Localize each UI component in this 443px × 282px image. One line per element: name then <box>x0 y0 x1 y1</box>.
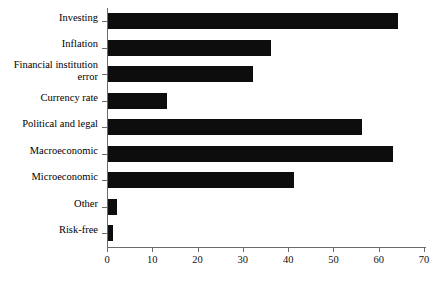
x-axis-tick-label: 20 <box>183 254 213 266</box>
x-axis-tick-label: 50 <box>318 254 348 266</box>
bar-band <box>108 61 425 88</box>
bar-investing <box>108 13 398 29</box>
bar-chart: Investing Inflation Financial institutio… <box>0 0 443 282</box>
y-axis-tick <box>102 233 107 234</box>
x-axis-tick <box>152 248 153 252</box>
y-axis-tick <box>102 48 107 49</box>
bar-band <box>108 194 425 221</box>
bar-band <box>108 8 425 35</box>
x-axis-tick <box>424 248 425 252</box>
plot-area <box>108 8 425 247</box>
bar-macroeconomic <box>108 146 393 162</box>
category-label-risk-free: Risk-free <box>0 224 98 236</box>
x-axis-tick <box>288 248 289 252</box>
x-axis-tick-label: 70 <box>409 254 439 266</box>
category-label-investing: Investing <box>0 12 98 24</box>
category-label-currency-rate: Currency rate <box>0 92 98 104</box>
bar-risk-free <box>108 225 113 241</box>
x-axis-tick <box>107 248 108 252</box>
category-label-financial-institution-error: Financial institution error <box>0 59 98 82</box>
bar-microeconomic <box>108 172 294 188</box>
bar-inflation <box>108 40 271 56</box>
bar-band <box>108 167 425 194</box>
bar-band <box>108 88 425 115</box>
category-label-inflation: Inflation <box>0 38 98 50</box>
category-label-microeconomic: Microeconomic <box>0 171 98 183</box>
category-label-other: Other <box>0 198 98 210</box>
y-axis-tick <box>102 21 107 22</box>
category-label-macroeconomic: Macroeconomic <box>0 145 98 157</box>
x-axis-tick-label: 60 <box>364 254 394 266</box>
bar-financial-institution-error <box>108 66 253 82</box>
bar-band <box>108 35 425 62</box>
y-axis-tick <box>102 207 107 208</box>
x-axis-tick <box>379 248 380 252</box>
y-axis-line <box>107 8 108 248</box>
x-axis-tick <box>198 248 199 252</box>
category-axis-labels: Investing Inflation Financial institutio… <box>0 8 103 247</box>
x-axis-tick <box>333 248 334 252</box>
y-axis-tick <box>102 101 107 102</box>
x-axis-tick-label: 30 <box>228 254 258 266</box>
x-axis-tick <box>243 248 244 252</box>
bar-currency-rate <box>108 93 167 109</box>
category-label-political-and-legal: Political and legal <box>0 118 98 130</box>
x-axis-tick-label: 40 <box>273 254 303 266</box>
bar-political-and-legal <box>108 119 362 135</box>
y-axis-tick <box>102 74 107 75</box>
x-axis-tick-label: 0 <box>92 254 122 266</box>
bar-band <box>108 114 425 141</box>
bar-band <box>108 220 425 247</box>
y-axis-tick <box>102 154 107 155</box>
bar-other <box>108 199 117 215</box>
bar-band <box>108 141 425 168</box>
x-axis-tick-label: 10 <box>137 254 167 266</box>
y-axis-tick <box>102 127 107 128</box>
y-axis-tick <box>102 180 107 181</box>
